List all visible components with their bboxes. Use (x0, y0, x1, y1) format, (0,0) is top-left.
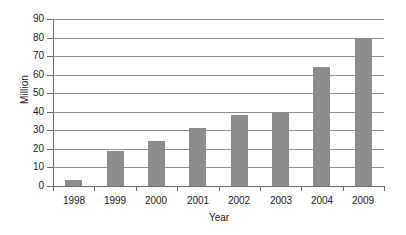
y-tick-label: 10 (14, 162, 44, 172)
x-tick (301, 187, 302, 191)
x-tick-label: 2001 (177, 195, 219, 206)
x-tick-label: 1998 (53, 195, 95, 206)
x-tick-label: 1999 (94, 195, 136, 206)
bar (231, 115, 248, 186)
gridline-70 (53, 56, 384, 57)
y-tick-label: 50 (14, 88, 44, 98)
bar (355, 38, 372, 186)
bar (272, 112, 289, 186)
x-tick (94, 187, 95, 191)
x-tick-label: 2009 (342, 195, 384, 206)
x-tick (384, 187, 385, 191)
y-tick-label: 70 (14, 51, 44, 61)
y-tick-label: 0 (14, 181, 44, 191)
x-tick (53, 187, 54, 191)
bar (148, 141, 165, 186)
bar (313, 67, 330, 186)
y-tick-label: 30 (14, 125, 44, 135)
gridline-30 (53, 130, 384, 131)
x-tick-label: 2003 (260, 195, 302, 206)
x-tick-label: 2002 (218, 195, 260, 206)
gridline-20 (53, 149, 384, 150)
x-tick (136, 187, 137, 191)
x-tick (343, 187, 344, 191)
x-tick (219, 187, 220, 191)
gridline-40 (53, 112, 384, 113)
y-tick-label: 20 (14, 144, 44, 154)
bar (189, 128, 206, 186)
plot-area (53, 19, 384, 186)
x-tick-label: 2000 (135, 195, 177, 206)
x-axis-title: Year (53, 212, 385, 223)
y-tick-label: 90 (14, 14, 44, 24)
x-tick-label: 2004 (301, 195, 343, 206)
gridline-10 (53, 167, 384, 168)
gridline-60 (53, 75, 384, 76)
y-tick-label: 60 (14, 70, 44, 80)
gridline-80 (53, 38, 384, 39)
gridline-50 (53, 93, 384, 94)
gridline-90 (53, 19, 384, 20)
bar (107, 151, 124, 186)
y-tick-label: 40 (14, 107, 44, 117)
x-tick (260, 187, 261, 191)
y-tick-label: 80 (14, 33, 44, 43)
bar-chart-figure: Million 0102030405060708090 199819992000… (0, 0, 406, 235)
x-tick (177, 187, 178, 191)
